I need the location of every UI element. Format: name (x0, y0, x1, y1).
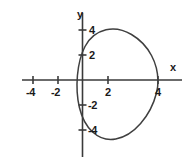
coordinate-plane (0, 0, 192, 167)
graph-figure: y x -4 -2 2 4 4 2 -2 -4 (0, 0, 192, 167)
x-tick-label-neg2: -2 (51, 87, 60, 98)
ellipse-curve (77, 29, 158, 139)
x-tick-label-pos2: 2 (105, 87, 111, 98)
y-axis-label: y (77, 9, 83, 20)
y-tick-label-neg2: -2 (88, 100, 97, 111)
y-tick-label-pos4: 4 (89, 25, 95, 36)
y-tick-label-pos2: 2 (89, 50, 95, 61)
x-axis-label: x (170, 62, 176, 73)
x-tick-label-pos4: 4 (155, 87, 161, 98)
x-tick-label-neg4: -4 (26, 87, 35, 98)
y-tick-label-neg4: -4 (88, 125, 97, 136)
